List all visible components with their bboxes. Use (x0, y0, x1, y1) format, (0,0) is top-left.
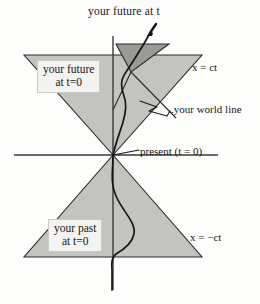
future-label-line2: at t=0 (43, 76, 94, 89)
past-label-line2: at t=0 (54, 235, 96, 248)
world-line-label: .your world line (171, 103, 242, 115)
x-equals-ct-label: x = ct (192, 61, 217, 73)
future-label-line1: your future (43, 63, 94, 76)
light-cone-drawing (0, 0, 260, 304)
present-label: present (t = 0) (140, 145, 202, 157)
x-equals-minus-ct-label: x = −ct (190, 231, 221, 243)
past-at-t0-label-box: your past at t=0 (48, 219, 102, 252)
past-label-line1: your past (54, 222, 96, 235)
future-at-t-label: your future at t (88, 5, 160, 18)
future-at-t0-label-box: your future at t=0 (37, 60, 100, 93)
spacetime-diagram: your future at t your future at t=0 your… (0, 0, 260, 304)
world-line-arrow-stem (150, 24, 156, 33)
